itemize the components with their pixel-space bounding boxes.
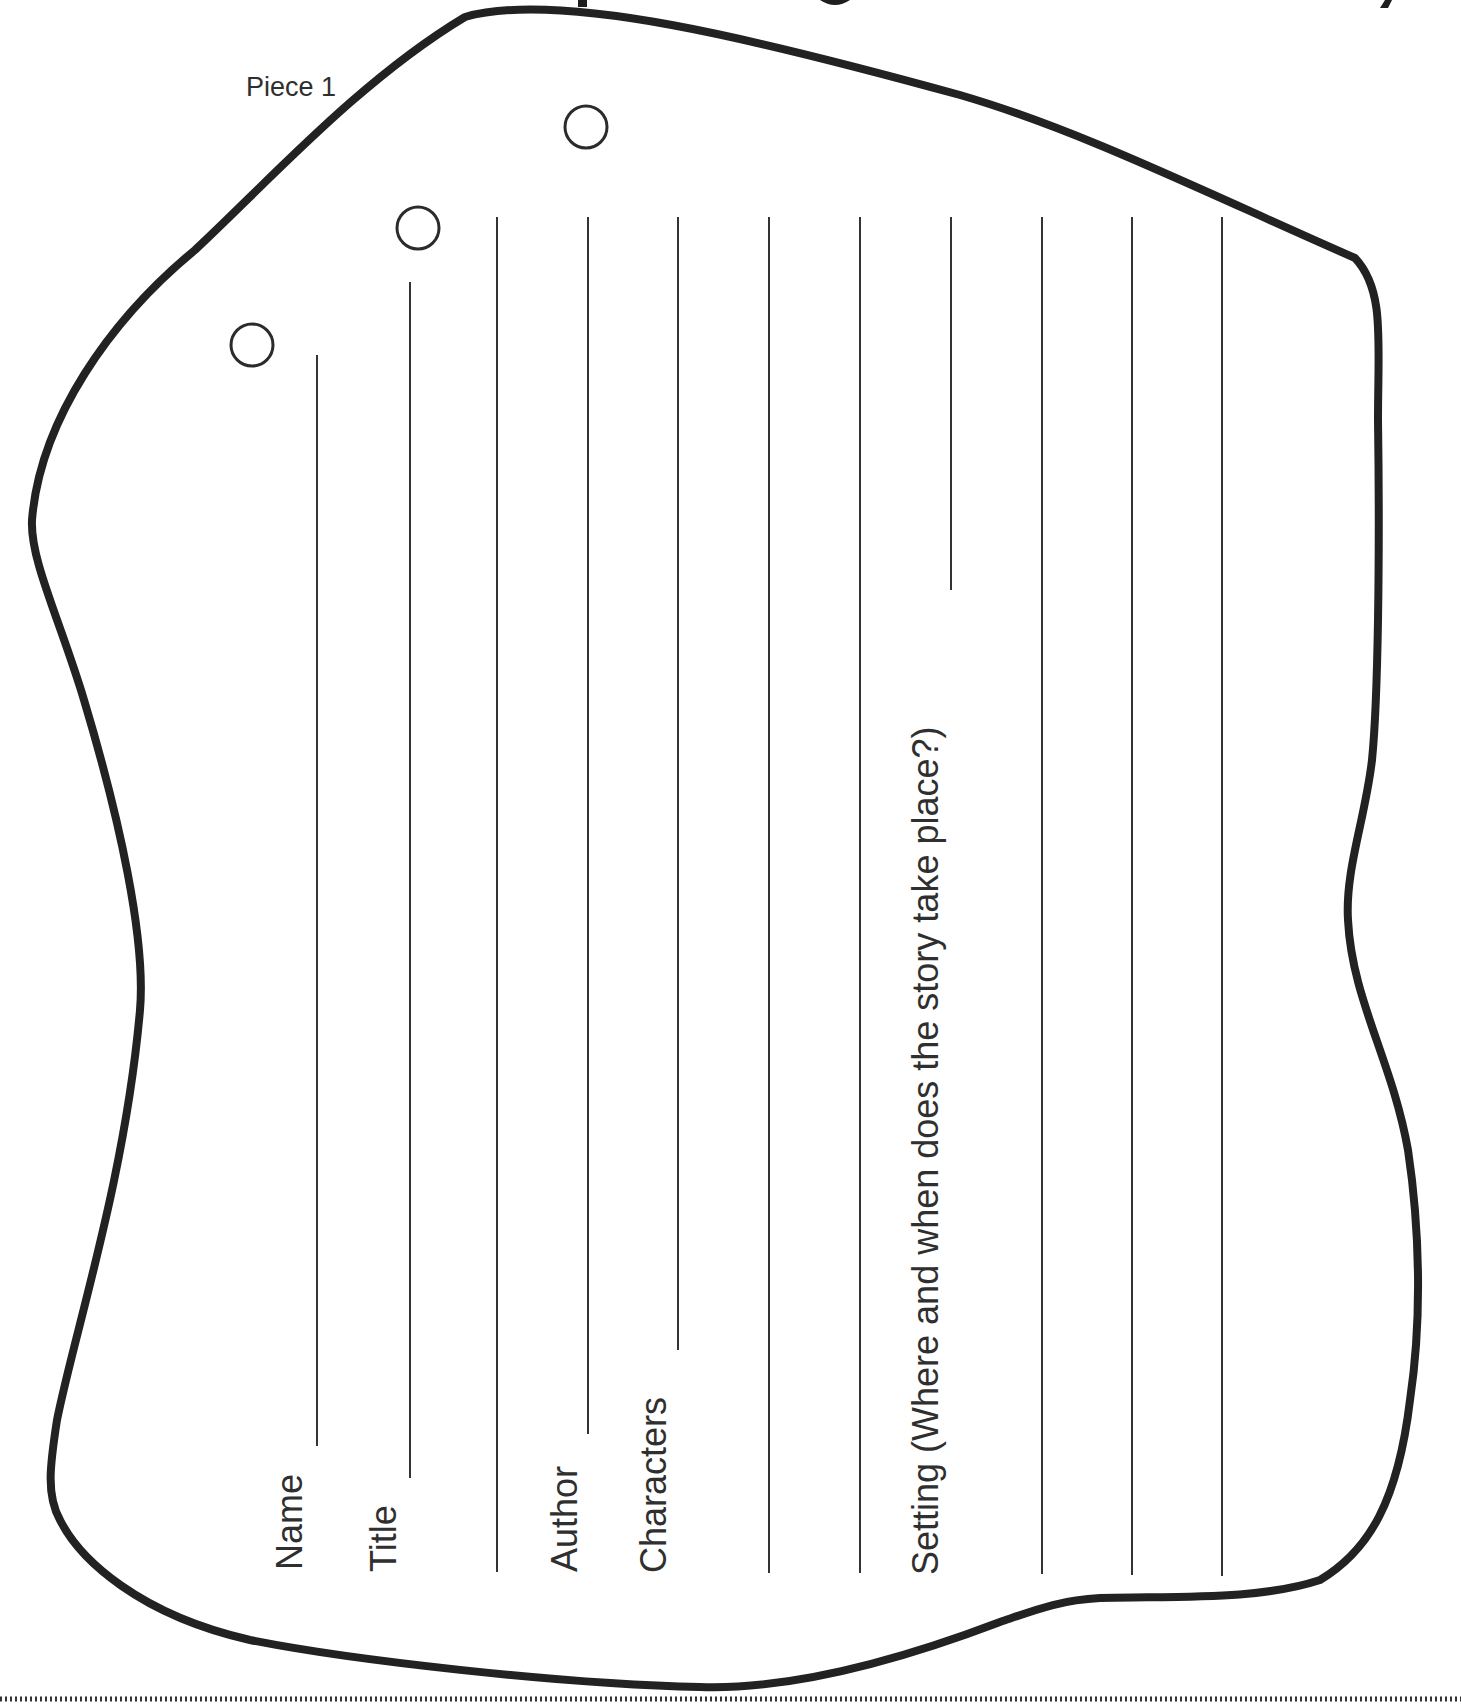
hole-icon bbox=[565, 106, 607, 148]
title-label: Title bbox=[366, 1505, 402, 1572]
hole-icon bbox=[397, 207, 439, 249]
setting-label: Setting (Where and when does the story t… bbox=[908, 727, 944, 1575]
characters-label: Characters bbox=[636, 1397, 672, 1573]
binder-holes bbox=[231, 106, 607, 366]
author-label: Author bbox=[547, 1466, 583, 1572]
hole-icon bbox=[231, 324, 273, 366]
piece-outline bbox=[32, 9, 1418, 1687]
writing-lines bbox=[317, 217, 1222, 1576]
piece-number-label: Piece 1 bbox=[246, 72, 336, 103]
title-descenders bbox=[578, 0, 1392, 8]
piece-artwork bbox=[0, 0, 1461, 1704]
name-label: Name bbox=[272, 1474, 308, 1570]
worksheet-page: Piece 1 Name Title Author Characters Set… bbox=[0, 0, 1461, 1704]
